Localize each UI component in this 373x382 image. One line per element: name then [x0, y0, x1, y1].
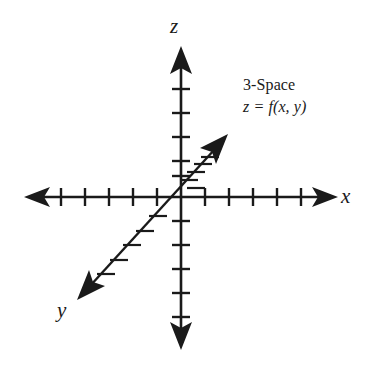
three-space-axes-figure: z x y 3-Space z = f(x, y)	[0, 0, 373, 382]
axes-svg	[0, 0, 373, 382]
z-axis-label: z	[170, 16, 178, 37]
y-axis-label: y	[57, 300, 66, 321]
x-axis-label: x	[341, 186, 350, 207]
annotation-equation: z = f(x, y)	[243, 96, 306, 118]
figure-annotation: 3-Space z = f(x, y)	[243, 74, 306, 117]
y-axis	[77, 134, 228, 300]
y-axis-line	[90, 149, 215, 286]
annotation-title: 3-Space	[243, 74, 306, 96]
